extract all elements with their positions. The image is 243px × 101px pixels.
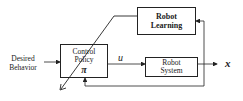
robot-system-block: Robot System — [145, 57, 198, 77]
control-signal-label: u — [118, 52, 123, 63]
robot-learning-line2: Learning — [151, 21, 183, 31]
policy-symbol: π — [81, 65, 86, 75]
robot-learning-block: Robot Learning — [137, 7, 196, 35]
desired-behavior-line2: Behavior — [2, 64, 44, 73]
robot-learning-line1: Robot — [156, 12, 177, 22]
robot-system-line2: System — [160, 67, 182, 76]
control-policy-block: Control Policy π — [60, 44, 108, 78]
diagram-connections — [0, 0, 243, 101]
output-label: x — [225, 57, 231, 69]
desired-behavior-label: Desired Behavior — [2, 55, 44, 72]
